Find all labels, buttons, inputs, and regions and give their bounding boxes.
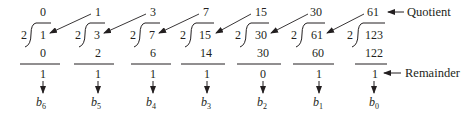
bit-label: b2 [257,95,267,111]
bit-label: b0 [369,95,379,111]
division-step-7: 61 2 123 122 1 b0 [347,5,387,111]
product: 60 [312,46,324,60]
division-step-5: 15 2 30 30 0 b2 [235,5,281,111]
quotient: 61 [367,5,379,19]
remainder: 1 [95,67,101,81]
binary-conversion-diagram: 0 2 1 0 1 b6 1 2 3 2 1 b5 3 2 7 6 1 b4 7… [0,0,476,115]
bit-label: b6 [36,95,46,111]
dividend: 1 [40,28,46,42]
product: 122 [365,46,383,60]
division-step-2: 1 2 3 2 1 b5 [74,5,114,111]
product: 14 [200,46,212,60]
quotient: 3 [150,5,156,19]
remainder-label: Remainder [405,66,461,80]
division-step-4: 7 2 15 14 1 b3 [180,5,225,111]
bit-label: b1 [313,95,323,111]
divisor: 2 [21,28,27,42]
divisor: 2 [130,28,136,42]
divisor: 2 [347,28,353,42]
remainder: 1 [204,67,210,81]
divisor: 2 [180,28,186,42]
arrow-diagonal-icon [159,14,199,33]
divisor: 2 [75,28,81,42]
quotient: 7 [203,5,209,19]
division-step-6: 30 2 61 60 1 b1 [291,5,334,111]
dividend: 3 [94,28,100,42]
product: 30 [257,46,269,60]
remainder-label-group: Remainder [384,66,461,80]
quotient: 30 [310,5,322,19]
dividend: 61 [311,28,323,42]
dividend: 15 [199,28,211,42]
bit-label: b3 [201,95,211,111]
remainder: 1 [40,67,46,81]
quotient: 0 [40,5,46,19]
dividend: 123 [365,28,383,42]
divisor: 2 [291,28,297,42]
division-step-3: 3 2 7 6 1 b4 [130,5,171,111]
product: 6 [150,46,156,60]
remainder: 1 [316,67,322,81]
quotient: 1 [95,5,101,19]
division-bracket [79,23,105,47]
quotient-label-group: Quotient [388,5,451,19]
remainder: 1 [372,67,378,81]
product: 2 [95,46,101,60]
arrow-diagonal-icon [104,14,146,33]
quotient: 15 [255,5,267,19]
bit-label: b5 [91,95,101,111]
division-step-1: 0 2 1 0 1 b6 [20,5,60,111]
dividend: 30 [255,28,267,42]
bit-label: b4 [146,95,156,111]
division-bracket [25,23,51,47]
product: 0 [40,46,46,60]
remainder: 0 [260,67,266,81]
dividend: 7 [149,28,155,42]
divisor: 2 [235,28,241,42]
remainder: 1 [150,67,156,81]
quotient-label: Quotient [407,5,451,19]
division-bracket [134,23,160,47]
